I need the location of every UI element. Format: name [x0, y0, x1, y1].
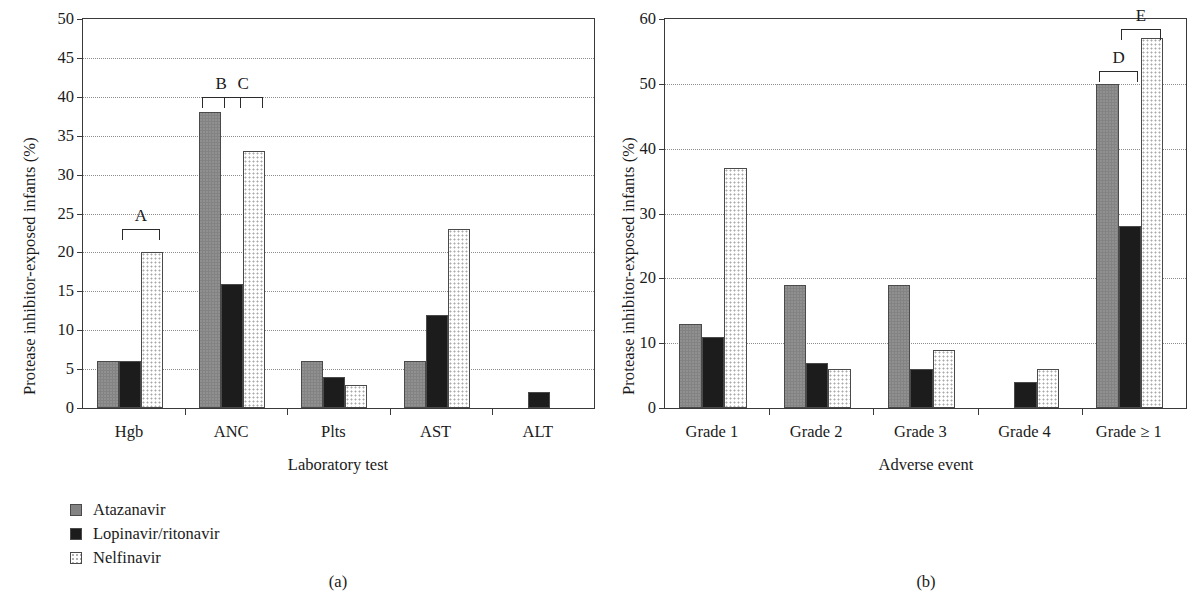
y-tick-label: 10 — [640, 335, 666, 352]
legend-item-lopinavir: Lopinavir/ritonavir — [70, 522, 219, 546]
bar-nelfinavir — [724, 168, 746, 408]
bar-atazanavir — [301, 361, 323, 408]
y-tick-label: 0 — [648, 400, 665, 417]
legend-item-atazanavir: Atazanavir — [70, 498, 219, 522]
x-tick-label: ANC — [214, 424, 249, 441]
x-axis-title-a: Laboratory test — [288, 455, 388, 475]
legend-label-nelfinavir: Nelfinavir — [93, 550, 161, 567]
y-tick-label: 20 — [640, 270, 666, 287]
gridline — [83, 97, 594, 98]
significance-label-c: C — [238, 75, 249, 92]
figure-two-panel-bar-charts: Protease inhibitor-exposed infants (%) 0… — [0, 0, 1192, 603]
bar-lopinavir — [1014, 382, 1036, 408]
y-tick-label: 30 — [640, 205, 666, 222]
bar-lopinavir — [119, 361, 141, 408]
plot-area-a: 05101520253035404550ABC — [82, 18, 595, 409]
y-tick-label: 50 — [640, 76, 666, 93]
y-axis-title-a: Protease inhibitor-exposed infants (%) — [20, 137, 40, 395]
x-tick-label: AST — [420, 424, 451, 441]
bar-nelfinavir — [933, 350, 955, 408]
bar-atazanavir — [404, 361, 426, 408]
y-tick-label: 20 — [58, 244, 84, 261]
gridline — [83, 214, 594, 215]
bar-nelfinavir — [448, 229, 470, 408]
x-tick-mark — [769, 408, 770, 415]
significance-label-d: D — [1112, 49, 1124, 66]
y-tick-label: 25 — [58, 205, 84, 222]
legend-item-nelfinavir: Nelfinavir — [70, 546, 219, 570]
bar-lopinavir — [806, 363, 828, 408]
x-tick-label: Grade 3 — [894, 424, 947, 441]
bar-nelfinavir — [243, 151, 265, 408]
bar-lopinavir — [323, 377, 345, 408]
y-tick-label: 60 — [640, 11, 666, 28]
bar-lopinavir — [702, 337, 724, 408]
y-tick-label: 0 — [66, 400, 83, 417]
x-tick-label: Plts — [321, 424, 346, 441]
bar-lopinavir — [221, 284, 243, 408]
bar-atazanavir — [97, 361, 119, 408]
significance-label-e: E — [1136, 7, 1146, 24]
bar-lopinavir — [1119, 226, 1141, 408]
gridline — [83, 136, 594, 137]
gridline — [83, 58, 594, 59]
x-tick-label: Grade 2 — [790, 424, 843, 441]
y-tick-label: 50 — [58, 11, 84, 28]
gridline — [83, 175, 594, 176]
significance-bracket-d — [1099, 71, 1138, 82]
bar-atazanavir — [784, 285, 806, 408]
x-tick-label: Grade 1 — [686, 424, 739, 441]
bar-atazanavir — [199, 112, 221, 408]
legend-swatch-atazanavir-icon — [70, 504, 82, 516]
subcaption-a: (a) — [329, 572, 347, 592]
bar-nelfinavir — [1141, 38, 1163, 408]
y-tick-label: 15 — [58, 283, 84, 300]
significance-bracket-a — [122, 229, 161, 240]
x-tick-label: ALT — [523, 424, 554, 441]
y-tick-label: 10 — [58, 322, 84, 339]
y-axis-title-b: Protease inhibitor-exposed infants (%) — [619, 137, 639, 395]
significance-bracket-e — [1121, 29, 1160, 40]
y-tick-label: 35 — [58, 127, 84, 144]
x-tick-mark — [390, 408, 391, 415]
x-tick-mark — [185, 408, 186, 415]
bar-nelfinavir — [345, 385, 367, 408]
bar-lopinavir — [910, 369, 932, 408]
y-tick-label: 30 — [58, 166, 84, 183]
significance-label-b: B — [216, 75, 227, 92]
bar-atazanavir — [888, 285, 910, 408]
x-tick-label: Grade ≥ 1 — [1096, 424, 1162, 441]
x-tick-mark — [287, 408, 288, 415]
bar-atazanavir — [1096, 84, 1118, 408]
x-tick-label: Hgb — [115, 424, 143, 441]
legend-a: Atazanavir Lopinavir/ritonavir Nelfinavi… — [70, 498, 219, 570]
x-tick-label: Grade 4 — [998, 424, 1051, 441]
x-tick-mark — [492, 408, 493, 415]
panel-b: Protease inhibitor-exposed infants (%) 0… — [600, 0, 1192, 603]
bar-lopinavir — [426, 315, 448, 408]
y-tick-label: 45 — [58, 50, 84, 67]
panel-a: Protease inhibitor-exposed infants (%) 0… — [0, 0, 600, 603]
y-tick-label: 5 — [66, 361, 83, 378]
x-axis-title-b: Adverse event — [879, 455, 974, 475]
x-tick-mark — [1082, 408, 1083, 415]
bar-atazanavir — [679, 324, 701, 408]
legend-label-atazanavir: Atazanavir — [93, 502, 165, 519]
bar-lopinavir — [528, 392, 550, 408]
legend-swatch-nelfinavir-icon — [70, 552, 82, 564]
bar-nelfinavir — [1037, 369, 1059, 408]
y-tick-label: 40 — [58, 89, 84, 106]
bar-nelfinavir — [141, 252, 163, 408]
legend-label-lopinavir: Lopinavir/ritonavir — [93, 526, 219, 543]
x-tick-mark — [873, 408, 874, 415]
legend-swatch-lopinavir-icon — [70, 528, 82, 540]
significance-label-a: A — [135, 207, 147, 224]
significance-bracket-c — [224, 97, 263, 108]
y-tick-label: 40 — [640, 140, 666, 157]
x-tick-mark — [978, 408, 979, 415]
plot-area-b: 0102030405060DE — [664, 18, 1187, 409]
bar-nelfinavir — [828, 369, 850, 408]
subcaption-b: (b) — [916, 572, 935, 592]
